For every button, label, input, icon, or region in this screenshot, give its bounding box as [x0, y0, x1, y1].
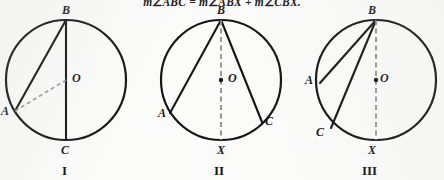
point-label-B: B: [217, 4, 225, 16]
chord-BC: [331, 20, 376, 128]
point-label-C: C: [265, 115, 273, 127]
figure-caption-3: III: [362, 164, 377, 177]
figure-3: B A C X O III: [296, 0, 444, 180]
geometry-figure-page: m∠ABC = m∠ABX + m∠CBX. B A C O I B A C X…: [0, 0, 444, 180]
point-label-A: A: [1, 105, 9, 117]
point-label-B: B: [368, 4, 376, 16]
figure-caption-2: II: [214, 164, 224, 177]
figure-1-canvas: [0, 0, 148, 180]
center-dot: [219, 78, 223, 82]
center-dot: [374, 78, 378, 82]
figure-2: B A C X O II: [148, 0, 296, 180]
point-label-X: X: [368, 144, 376, 156]
point-label-X: X: [217, 144, 225, 156]
point-label-B: B: [62, 4, 70, 16]
center-label-O: O: [228, 72, 237, 84]
point-label-C: C: [316, 126, 324, 138]
point-label-A: A: [305, 74, 313, 86]
center-label-O: O: [380, 72, 389, 84]
center-label-O: O: [72, 72, 81, 84]
chord-BA: [170, 20, 221, 113]
chord-BA: [15, 20, 66, 111]
figure-1: B A C O I: [0, 0, 148, 180]
chord-BA: [320, 20, 376, 83]
point-label-A: A: [158, 107, 166, 119]
figure-caption-1: I: [62, 164, 67, 177]
point-label-C: C: [61, 144, 69, 156]
